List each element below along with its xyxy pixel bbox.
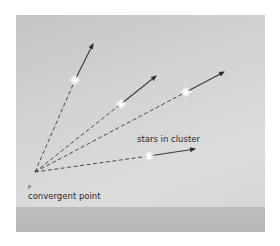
convergent-point-diagram: [0, 0, 280, 246]
proper-motion-arrow: [75, 44, 93, 80]
stars-in-cluster-label: stars in cluster: [137, 134, 200, 144]
convergent-point-label: convergent point: [28, 191, 101, 201]
star-icon: [73, 78, 76, 81]
star-icon: [184, 90, 187, 93]
proper-motion-arrow: [121, 76, 156, 104]
star-icon: [119, 102, 122, 105]
point-symbol-label: P: [28, 184, 31, 190]
proper-motion-arrow: [186, 72, 224, 92]
proper-motion-arrow: [149, 149, 195, 156]
dashed-projection-line: [35, 92, 186, 172]
dashed-projection-line: [35, 80, 75, 172]
star-icon: [147, 154, 150, 157]
